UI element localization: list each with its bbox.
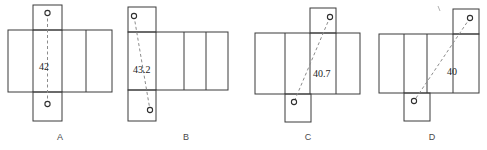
band-rect xyxy=(379,34,479,93)
panel-letter-a: A xyxy=(57,132,63,142)
shortest-path-line xyxy=(134,16,150,110)
distance-label: 42 xyxy=(39,61,49,72)
shortest-path-line xyxy=(414,18,470,101)
top-flap-rect xyxy=(310,8,336,33)
path-endpoint-1 xyxy=(467,15,472,20)
distance-label: 40 xyxy=(447,66,457,77)
top-flap-rect xyxy=(128,7,156,32)
path-endpoint-2 xyxy=(411,98,416,103)
path-endpoint-2 xyxy=(147,107,152,112)
stray-pen-mark xyxy=(438,6,440,11)
panel-letter-d: D xyxy=(429,132,436,142)
net-panel-d: 40D xyxy=(379,9,479,142)
path-endpoint-1 xyxy=(327,14,332,19)
band-rect xyxy=(255,33,360,94)
panel-letter-b: B xyxy=(183,132,189,142)
distance-label: 40.7 xyxy=(313,68,331,79)
figure-panel: 42A43.2B40.7C40D xyxy=(0,0,487,150)
band-rect xyxy=(128,32,228,90)
net-panel-b: 43.2B xyxy=(128,7,228,142)
distance-label: 43.2 xyxy=(133,64,151,75)
box-net-diagram: 42A43.2B40.7C40D xyxy=(0,0,487,150)
panels-group: 42A43.2B40.7C40D xyxy=(8,5,479,142)
panel-letter-c: C xyxy=(305,132,312,142)
top-flap-rect xyxy=(453,9,479,34)
path-endpoint-1 xyxy=(131,13,136,18)
bottom-flap-rect xyxy=(128,90,156,121)
shortest-path-line xyxy=(294,17,330,102)
band-rect xyxy=(8,30,112,92)
net-panel-c: 40.7C xyxy=(255,8,360,142)
net-panel-a: 42A xyxy=(8,5,112,142)
path-endpoint-2 xyxy=(45,101,50,106)
path-endpoint-2 xyxy=(291,99,296,104)
bottom-flap-rect xyxy=(285,94,311,122)
path-endpoint-1 xyxy=(45,10,50,15)
